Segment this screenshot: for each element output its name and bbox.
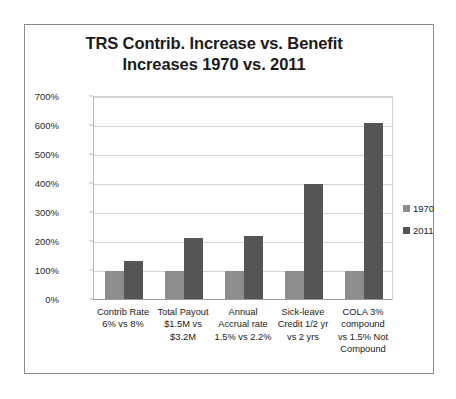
chart-legend: 19702011 <box>403 203 434 247</box>
bar-1970[interactable] <box>285 271 304 300</box>
legend-item[interactable]: 2011 <box>403 225 434 236</box>
bar-group <box>274 97 334 300</box>
bar-2011[interactable] <box>304 184 323 300</box>
y-axis-tick-label: 100% <box>11 265 59 276</box>
bar-group <box>214 97 274 300</box>
chart-frame: TRS Contrib. Increase vs. Benefit Increa… <box>24 24 434 374</box>
bar-group <box>94 97 154 300</box>
chart-title-line-1: TRS Contrib. Increase vs. Benefit <box>39 33 389 54</box>
y-axis-tick-label: 300% <box>11 207 59 218</box>
x-axis-label-line: vs 1.5% Not <box>327 331 399 343</box>
legend-item-label: 1970 <box>413 203 434 214</box>
x-axis-line <box>94 299 392 300</box>
y-axis-tick-label: 700% <box>11 91 59 102</box>
x-axis-label-line: Compound <box>327 343 399 355</box>
plot-area <box>93 96 393 300</box>
legend-item[interactable]: 1970 <box>403 203 434 214</box>
legend-swatch-icon <box>403 227 410 234</box>
bar-2011[interactable] <box>184 238 203 300</box>
bar-group <box>154 97 214 300</box>
bar-1970[interactable] <box>165 271 184 300</box>
y-axis-tick-label: 0% <box>11 294 59 305</box>
bar-2011[interactable] <box>364 123 383 300</box>
bar-1970[interactable] <box>105 271 124 300</box>
bar-1970[interactable] <box>345 271 364 300</box>
y-axis-tick-label: 500% <box>11 149 59 160</box>
bar-2011[interactable] <box>124 261 143 300</box>
y-axis-tick-label: 400% <box>11 178 59 189</box>
x-axis-label-line: COLA 3% <box>327 306 399 318</box>
x-axis-label-line: compound <box>327 318 399 330</box>
x-axis-category-label: COLA 3%compoundvs 1.5% NotCompound <box>327 306 399 355</box>
legend-item-label: 2011 <box>413 225 433 236</box>
chart-title-line-2: Increases 1970 vs. 2011 <box>39 54 389 75</box>
bar-2011[interactable] <box>244 236 263 300</box>
bar-1970[interactable] <box>225 271 244 300</box>
chart-title: TRS Contrib. Increase vs. Benefit Increa… <box>39 33 389 75</box>
legend-swatch-icon <box>403 205 410 212</box>
bar-group <box>334 97 394 300</box>
y-axis-tick-label: 200% <box>11 236 59 247</box>
y-axis-tick-label: 600% <box>11 120 59 131</box>
